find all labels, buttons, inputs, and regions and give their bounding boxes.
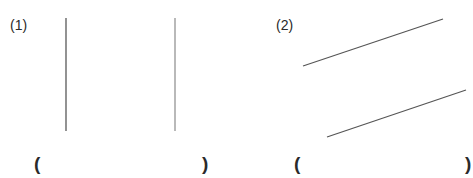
problem-1-answer-close-paren: ) (202, 154, 208, 174)
problem-1-answer-open-paren: ( (34, 154, 40, 174)
problem-2-answer-close-paren: ) (465, 154, 471, 174)
problem-2-answer-blank[interactable] (308, 152, 458, 176)
problem-1-answer-blank[interactable] (48, 152, 198, 176)
problem-2-answer-open-paren: ( (294, 154, 300, 174)
problem-2-line-lower (327, 90, 466, 137)
problem-2-label: (2) (276, 17, 293, 33)
problem-1-label: (1) (10, 17, 27, 33)
problem-2-line-upper (303, 19, 443, 66)
